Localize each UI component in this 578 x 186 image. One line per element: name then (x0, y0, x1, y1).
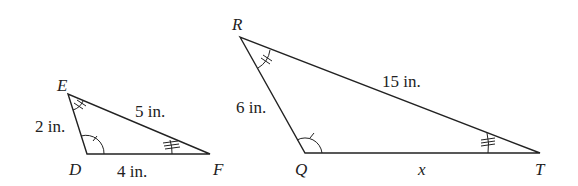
angle-t-tick-3 (481, 144, 495, 146)
vertex-e-label: E (56, 76, 68, 95)
side-df-label: 4 in. (117, 162, 147, 181)
vertex-q-label: Q (295, 160, 307, 179)
angle-q-tick (310, 133, 314, 138)
side-ef-label: 5 in. (135, 102, 165, 121)
side-ed-label: 2 in. (35, 117, 65, 136)
side-rt-label: 15 in. (382, 72, 421, 91)
vertex-f-label: F (212, 160, 224, 179)
triangle-qrt-outline (240, 37, 540, 153)
similar-triangles-diagram: E D F 2 in. 5 in. 4 in. R Q T 6 in. 15 i… (0, 0, 578, 186)
triangle-def: E D F 2 in. 5 in. 4 in. (35, 76, 224, 181)
side-rq-label: 6 in. (236, 98, 266, 117)
vertex-r-label: R (231, 15, 243, 34)
angle-f-tick-3 (165, 147, 180, 149)
triangle-qrt: R Q T 6 in. 15 in. x (231, 15, 546, 179)
side-qt-label: x (417, 160, 426, 179)
vertex-t-label: T (535, 160, 546, 179)
angle-t-arc (487, 133, 489, 153)
vertex-d-label: D (68, 160, 82, 179)
